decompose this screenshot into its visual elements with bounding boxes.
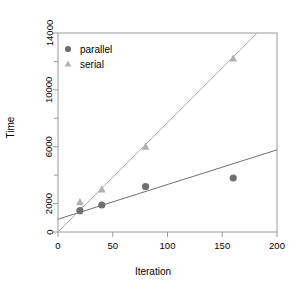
y-tick-label: 6000 xyxy=(44,136,55,157)
y-tick-label: 10000 xyxy=(44,77,55,103)
y-axis-title: Time xyxy=(5,108,16,148)
x-axis-ticks xyxy=(58,232,277,237)
x-axis-tick-labels: 050100150200 xyxy=(55,240,285,251)
legend-marker-parallel xyxy=(65,46,71,52)
fit-line-parallel xyxy=(58,150,277,219)
x-tick-label: 50 xyxy=(107,240,118,251)
data-point-serial xyxy=(98,185,106,192)
x-tick-label: 0 xyxy=(55,240,60,251)
data-point-parallel xyxy=(230,174,237,181)
y-tick-label: 0 xyxy=(44,229,55,234)
plot-canvas: 050100150200 0200060001000014000 paralle… xyxy=(0,0,306,294)
data-point-serial xyxy=(76,198,84,205)
x-tick-label: 100 xyxy=(160,240,176,251)
data-point-serial xyxy=(229,54,237,61)
data-point-parallel xyxy=(98,201,105,208)
y-tick-label: 14000 xyxy=(44,20,55,46)
y-tick-label: 2000 xyxy=(44,193,55,214)
chart-legend: parallelserial xyxy=(65,44,113,70)
series-data-points xyxy=(76,54,237,214)
data-point-parallel xyxy=(76,207,83,214)
x-tick-label: 150 xyxy=(214,240,230,251)
chart-figure: 050100150200 0200060001000014000 paralle… xyxy=(0,0,306,294)
data-point-parallel xyxy=(142,183,149,190)
data-point-serial xyxy=(142,143,150,150)
legend-marker-serial xyxy=(65,60,72,66)
x-axis-title: Iteration xyxy=(0,266,306,277)
legend-label-parallel: parallel xyxy=(80,44,112,55)
y-axis-tick-labels: 0200060001000014000 xyxy=(44,20,55,235)
legend-label-serial: serial xyxy=(80,59,104,70)
x-tick-label: 200 xyxy=(269,240,285,251)
